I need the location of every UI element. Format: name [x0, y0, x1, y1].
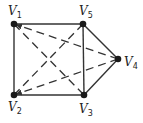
- label-v2: V2: [8, 100, 22, 116]
- label-v1: V1: [8, 4, 22, 20]
- label-v5: V5: [79, 4, 93, 20]
- edge-v5-v3: [83, 24, 84, 95]
- edges-group: [14, 24, 118, 95]
- graph-diagram: V1V2V3V4V5: [0, 0, 143, 123]
- node-v1: [11, 21, 18, 28]
- nodes-group: [11, 21, 122, 99]
- dashed-edge-v4-v2: [17, 59, 118, 94]
- node-v5: [80, 21, 87, 28]
- node-v3: [81, 92, 88, 99]
- node-v4: [115, 56, 122, 63]
- label-v4: V4: [124, 55, 138, 71]
- node-v2: [11, 92, 18, 99]
- dashed-edge-v4-v1: [17, 25, 118, 59]
- label-v3: V3: [79, 102, 93, 118]
